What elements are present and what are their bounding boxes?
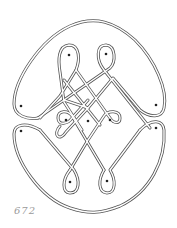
dot	[69, 181, 72, 184]
dot	[155, 127, 158, 130]
knot-diagram	[0, 0, 177, 228]
dot	[20, 105, 23, 108]
dot	[87, 120, 90, 123]
figure-number: 672	[14, 205, 36, 216]
double-line-outer	[14, 21, 165, 213]
dot	[68, 54, 71, 57]
dot	[65, 119, 68, 122]
dot	[109, 119, 112, 122]
dot	[155, 104, 158, 107]
dot	[106, 180, 109, 183]
dot	[105, 53, 108, 56]
dot	[20, 130, 23, 133]
